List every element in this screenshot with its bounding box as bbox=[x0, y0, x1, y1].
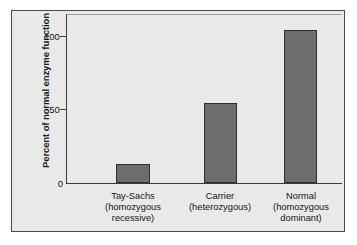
plot-area: 100 50 0 Tay-Sachs (homozygous recessive… bbox=[66, 14, 342, 184]
y-tick-50: 50 bbox=[60, 109, 67, 110]
bar-carrier bbox=[204, 103, 237, 183]
y-tick-label-50: 50 bbox=[49, 103, 60, 114]
bar-normal bbox=[284, 30, 317, 183]
x-label-normal-line1: Normal bbox=[243, 191, 357, 202]
bar-tay-sachs bbox=[116, 164, 150, 183]
x-label-tay-sachs-line3: recessive) bbox=[75, 213, 191, 224]
x-label-normal-line2: (homozygous bbox=[243, 202, 357, 213]
figure-panel: Percent of normal enzyme function 100 50… bbox=[11, 10, 345, 232]
x-label-normal: Normal (homozygous dominant) bbox=[243, 191, 357, 225]
y-tick-label-0: 0 bbox=[58, 178, 63, 189]
y-tick-label-100: 100 bbox=[44, 30, 60, 41]
x-label-normal-line3: dominant) bbox=[243, 213, 357, 224]
y-tick-100: 100 bbox=[60, 36, 67, 37]
